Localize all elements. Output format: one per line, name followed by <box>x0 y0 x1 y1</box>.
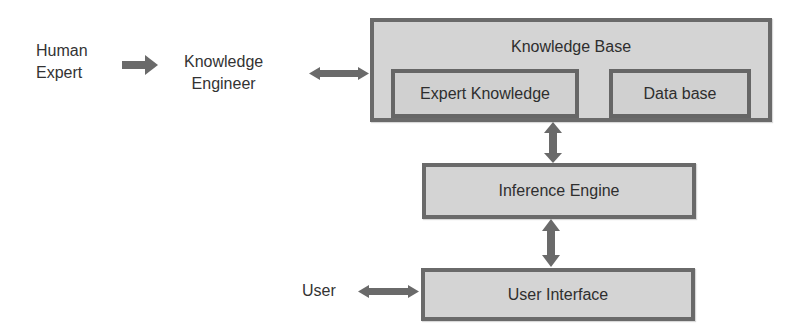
double-arrow-horizontal-icon <box>309 67 369 80</box>
arrow-right-icon <box>122 55 158 75</box>
double-arrow-vertical-icon <box>542 219 560 267</box>
double-arrow-vertical-icon <box>544 122 562 163</box>
double-arrow-horizontal-icon <box>358 285 419 298</box>
connector-arrows <box>0 0 807 333</box>
